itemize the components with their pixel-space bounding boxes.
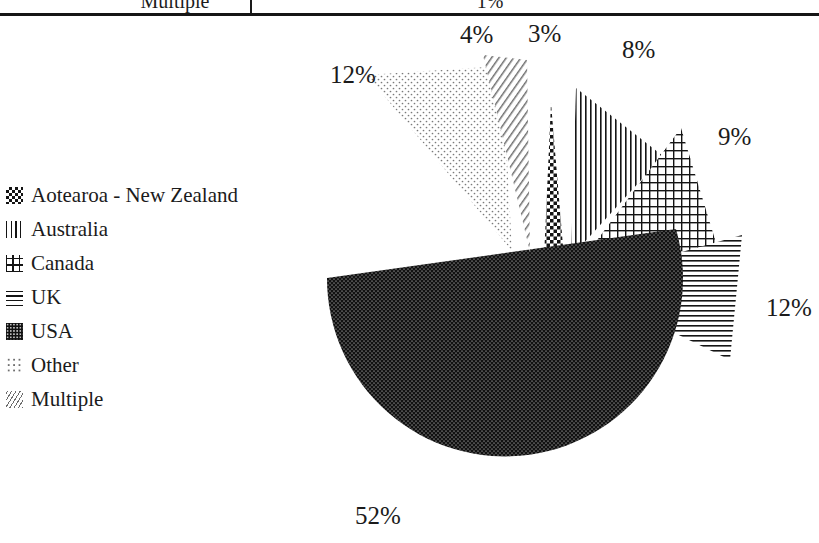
pie-slice-aotearoa[interactable] (544, 103, 564, 258)
slice-label-multiple: 4% (460, 22, 493, 47)
legend-label: Other (31, 355, 79, 376)
pie-chart (305, 30, 805, 530)
pie-svg (305, 30, 805, 530)
slice-label-aotearoa: 3% (528, 21, 561, 46)
legend-item-australia[interactable]: Australia (6, 212, 336, 246)
legend-label: UK (31, 287, 61, 308)
slice-label-australia: 8% (622, 37, 655, 62)
light-dots-pattern-swatch-icon (6, 357, 23, 374)
vertical-lines-pattern-swatch-icon (6, 221, 23, 238)
slice-label-other: 12% (330, 62, 376, 87)
legend-label: USA (31, 321, 73, 342)
legend-label: Multiple (31, 389, 103, 410)
legend-item-other[interactable]: Other (6, 348, 336, 382)
horizontal-rule (0, 13, 819, 16)
legend-item-uk[interactable]: UK (6, 280, 336, 314)
checkerboard-pattern-swatch-icon (6, 187, 23, 204)
legend-item-multiple[interactable]: Multiple (6, 382, 336, 416)
slice-label-canada: 9% (718, 124, 751, 149)
pie-slice-other[interactable] (367, 66, 512, 251)
slice-label-uk: 12% (766, 295, 812, 320)
legend-item-aotearoa[interactable]: Aotearoa - New Zealand (6, 178, 336, 212)
table-cell-value: 1% (430, 0, 550, 13)
grid-crosshatch-pattern-swatch-icon (6, 255, 23, 272)
pie-slice-usa[interactable] (327, 229, 683, 456)
table-cell-label: Multiple (100, 0, 250, 13)
chart-canvas: Multiple 1% (0, 0, 819, 543)
slice-label-usa: 52% (355, 503, 401, 528)
horizontal-lines-pattern-swatch-icon (6, 289, 23, 306)
legend: Aotearoa - New Zealand Australia Canada … (6, 178, 336, 416)
legend-label: Aotearoa - New Zealand (31, 185, 238, 206)
table-column-divider (250, 0, 252, 13)
legend-label: Australia (31, 219, 108, 240)
legend-item-usa[interactable]: USA (6, 314, 336, 348)
diagonal-hatch-pattern-swatch-icon (6, 391, 23, 408)
legend-label: Canada (31, 253, 94, 274)
legend-item-canada[interactable]: Canada (6, 246, 336, 280)
solid-dark-pattern-swatch-icon (6, 323, 23, 340)
